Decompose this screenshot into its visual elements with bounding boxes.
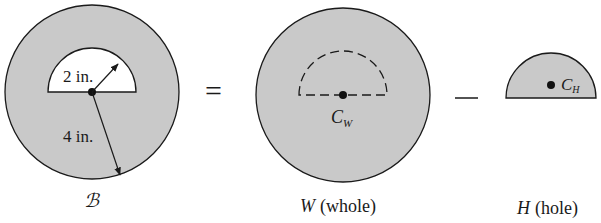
hole-shape: CH H(hole) <box>506 53 596 219</box>
hole-caption: H(hole) <box>516 198 578 219</box>
composite-area-diagram: 2 in. 4 in. ℬ = CW W(whole) CH H(hole) <box>0 0 601 223</box>
whole-centroid-point <box>339 91 347 99</box>
hole-semicircle <box>506 53 596 98</box>
whole-shape: CW W(whole) <box>256 8 430 217</box>
hole-centroid-point <box>547 81 555 89</box>
composite-caption: ℬ <box>84 190 101 211</box>
inner-radius-label: 2 in. <box>63 67 93 86</box>
composite-shape: 2 in. 4 in. ℬ <box>5 5 179 211</box>
whole-caption: W(whole) <box>300 196 376 217</box>
outer-radius-label: 4 in. <box>63 127 93 146</box>
equals-sign: = <box>205 74 222 107</box>
